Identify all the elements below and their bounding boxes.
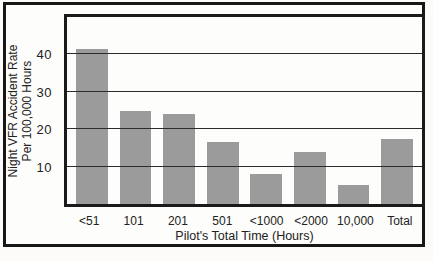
bar-51: [76, 49, 108, 204]
x-tick-label-101: 101: [124, 214, 144, 228]
x-tick-slot: 501: [200, 211, 244, 229]
x-tick-label-2000: <2000: [294, 214, 328, 228]
y-tick-label-10: 10: [37, 159, 52, 174]
x-tick-label-201: 201: [168, 214, 188, 228]
y-axis-ticks: 10203040: [12, 17, 58, 204]
bars-container: [67, 17, 422, 204]
x-axis-ticks: <51101201501<1000<200010,000Total: [64, 211, 425, 229]
bar-slot: [332, 17, 376, 204]
plot-area: [64, 14, 425, 207]
y-tick-label-40: 40: [37, 47, 52, 62]
bar-10000: [338, 185, 370, 204]
x-tick-label-Total: Total: [387, 214, 412, 228]
x-tick-slot: Total: [378, 211, 422, 229]
bar-slot: [375, 17, 419, 204]
x-tick-slot: <2000: [289, 211, 333, 229]
y-tick-label-30: 30: [37, 84, 52, 99]
bar-2000: [294, 152, 326, 204]
x-tick-slot: <1000: [245, 211, 289, 229]
bar-slot: [157, 17, 201, 204]
bar-Total: [381, 139, 413, 204]
x-tick-slot: 10,000: [333, 211, 377, 229]
y-tick-label-20: 20: [37, 122, 52, 137]
bar-slot: [245, 17, 289, 204]
bar-101: [120, 111, 152, 205]
x-tick-label-51: <51: [79, 214, 99, 228]
x-tick-label-501: 501: [212, 214, 232, 228]
gridline-40: [67, 53, 422, 54]
x-tick-slot: 101: [111, 211, 155, 229]
chart-frame: Night VFR Accident Rate Per 100,000 Hour…: [3, 2, 425, 247]
x-tick-label-10000: 10,000: [337, 214, 374, 228]
bar-slot: [288, 17, 332, 204]
bar-slot: [70, 17, 114, 204]
x-axis-title: Pilot's Total Time (Hours): [64, 229, 425, 243]
bar-slot: [114, 17, 158, 204]
bar-501: [207, 142, 239, 204]
x-tick-label-1000: <1000: [250, 214, 284, 228]
bar-1000: [250, 174, 282, 204]
bar-slot: [201, 17, 245, 204]
x-tick-slot: <51: [67, 211, 111, 229]
gridline-30: [67, 91, 422, 92]
figure-scan: Night VFR Accident Rate Per 100,000 Hour…: [0, 0, 433, 261]
gridline-20: [67, 128, 422, 129]
x-tick-slot: 201: [156, 211, 200, 229]
gridline-10: [67, 166, 422, 167]
